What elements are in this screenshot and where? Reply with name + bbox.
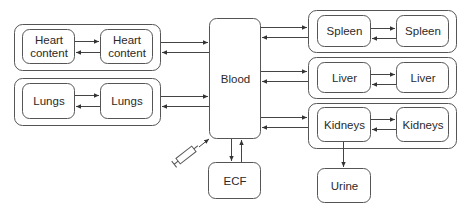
heart-label-a: Heart content bbox=[23, 30, 75, 64]
lungs-label-a: Lungs bbox=[23, 84, 75, 119]
ecf-label: ECF bbox=[209, 163, 261, 199]
blood-label: Blood bbox=[210, 19, 261, 139]
liver-label-a: Liver bbox=[318, 63, 371, 93]
spleen-label-a: Spleen bbox=[318, 16, 371, 47]
kidneys-label-b: Kidneys bbox=[397, 108, 449, 142]
lungs-label-b: Lungs bbox=[101, 84, 153, 119]
heart-label-b: Heart content bbox=[101, 30, 153, 64]
spleen-label-b: Spleen bbox=[397, 16, 449, 47]
syringe-icon bbox=[172, 143, 201, 168]
kidneys-label-a: Kidneys bbox=[318, 108, 371, 142]
liver-label-b: Liver bbox=[397, 63, 449, 93]
urine-label: Urine bbox=[318, 169, 371, 203]
